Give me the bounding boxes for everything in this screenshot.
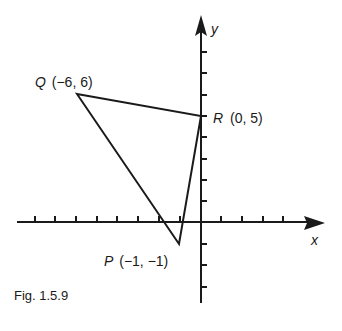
x-axis-label: x <box>310 232 319 248</box>
y-axis-label: y <box>210 21 219 37</box>
svg-text:Q (−6, 6): Q (−6, 6) <box>35 74 93 90</box>
coordinate-diagram: x y Q (−6, 6) R (0, 5) <box>0 0 342 331</box>
svg-text:R (0, 5): R (0, 5) <box>213 110 263 126</box>
point-label-p: P (−1, −1) <box>104 253 168 269</box>
point-q-coords: (−6, 6) <box>52 74 93 90</box>
point-r-name: R <box>213 110 223 126</box>
point-label-r: R (0, 5) <box>213 110 263 126</box>
point-p-coords: (−1, −1) <box>119 253 168 269</box>
point-q-name: Q <box>35 74 46 90</box>
point-p-name: P <box>104 253 114 269</box>
x-axis-arrow-icon <box>304 216 325 230</box>
svg-text:P (−1, −1): P (−1, −1) <box>104 253 168 269</box>
point-label-q: Q (−6, 6) <box>35 74 93 90</box>
y-axis: y <box>195 15 219 303</box>
point-r-coords: (0, 5) <box>230 110 263 126</box>
figure-caption: Fig. 1.5.9 <box>14 288 68 303</box>
